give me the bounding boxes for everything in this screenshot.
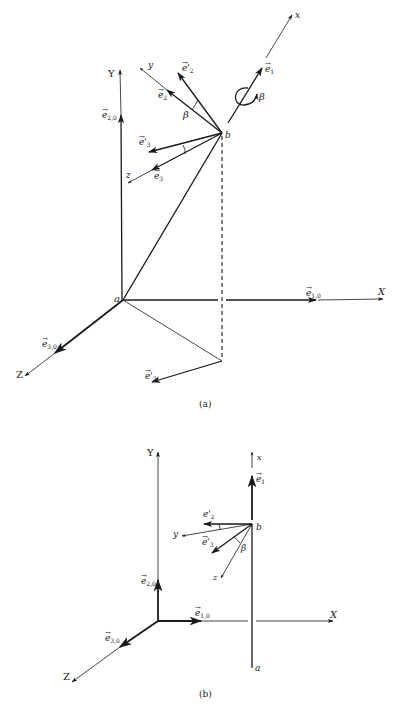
label-X-b: X	[329, 609, 338, 620]
e3p-projected-vector	[152, 361, 222, 382]
label-rotation-beta: β	[258, 91, 265, 102]
z-axis-global-a	[25, 353, 55, 376]
caption-b: (b)	[199, 689, 212, 699]
vector-arrow-icon: →	[256, 470, 262, 478]
x-axis-body-a	[266, 15, 292, 58]
label-beta-a: β	[182, 109, 189, 120]
beta-arc-a	[192, 100, 198, 110]
x-axis-global-a	[318, 299, 383, 300]
z-axis-body-a	[128, 170, 152, 183]
vector-arrow-icon: →	[139, 133, 145, 141]
label-Z-b: Z	[63, 671, 70, 682]
label-Y-a: Y	[107, 68, 115, 79]
panel-a: Y e2,0 → a b e1,0 → X e3,0 → Z e'3 → x e…	[16, 10, 386, 409]
figure-canvas: Y e2,0 → a b e1,0 → X e3,0 → Z e'3 → x e…	[0, 0, 397, 710]
label-z-body-a: z	[125, 170, 131, 180]
rotation-arrow-icon	[235, 88, 257, 105]
e3p-vector-a	[149, 133, 222, 152]
label-x-body-b: x	[257, 453, 262, 462]
caption-a: (a)	[199, 399, 211, 409]
y-axis-global-a	[120, 70, 121, 115]
z-axis-body-b	[221, 524, 252, 578]
vector-arrow-icon: →	[145, 367, 151, 375]
label-point-a-b: a	[255, 663, 260, 673]
z-axis-global-b	[72, 647, 120, 682]
vector-arrow-icon: →	[141, 572, 147, 580]
label-Y-b: Y	[146, 447, 154, 458]
vector-arrow-icon: →	[102, 106, 108, 114]
panel-b: Y e2,0 → e1,0 → X e3,0 → Z a b x e1 → e'…	[63, 447, 338, 699]
label-point-a-a: a	[114, 293, 120, 304]
vector-arrow-icon: →	[105, 629, 111, 637]
label-beta-b: β	[240, 543, 246, 553]
label-z-body-b: z	[212, 573, 218, 582]
label-X-a: X	[377, 286, 386, 297]
vector-arrow-icon: →	[182, 59, 188, 67]
label-e2p-b: e'2	[203, 509, 215, 520]
label-Z-a: Z	[16, 369, 23, 380]
e30-vector-a	[55, 300, 123, 353]
vector-arrow-icon: →	[154, 167, 160, 175]
projection-line	[123, 300, 222, 361]
e30-vector-b	[120, 621, 158, 647]
vector-arrow-icon: →	[265, 60, 271, 68]
label-point-b-b: b	[256, 522, 262, 532]
vector-arrow-icon: →	[158, 86, 164, 94]
vector-arrow-icon: →	[195, 604, 201, 612]
label-point-b-a: b	[225, 130, 231, 140]
label-y-body-b: y	[172, 529, 179, 539]
beta-arc-b	[234, 537, 240, 543]
y-axis-body-b	[182, 524, 252, 536]
rod-ab-a	[123, 133, 222, 300]
vector-arrow-icon: →	[202, 533, 208, 541]
e20-vector-a	[121, 115, 122, 300]
angle-arc-e2p-b	[219, 524, 220, 530]
label-x-body-a: x	[295, 10, 300, 20]
vector-arrow-icon: →	[42, 335, 48, 343]
label-y-body-a: y	[147, 60, 154, 70]
vector-arrow-icon: →	[306, 284, 312, 292]
